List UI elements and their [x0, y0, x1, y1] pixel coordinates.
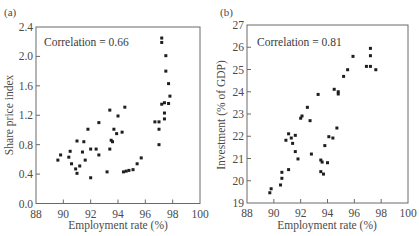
x-tick-label: 92 [295, 207, 307, 219]
data-point [82, 140, 85, 143]
y-tick-label: 27 [233, 19, 245, 31]
data-point [374, 68, 377, 71]
y-tick-label: 0.0 [19, 198, 34, 210]
data-point [89, 176, 92, 179]
data-point [56, 159, 59, 162]
x-tick-label: 98 [167, 208, 179, 220]
y-tick-label: 25 [233, 64, 245, 76]
y-tick-label: 24 [233, 86, 245, 98]
data-point [331, 137, 334, 140]
data-point [95, 148, 98, 151]
data-point [167, 102, 170, 105]
data-point [369, 47, 372, 50]
data-point [78, 164, 81, 167]
data-point [163, 117, 166, 120]
x-tick-label: 100 [399, 207, 417, 219]
data-point [108, 148, 111, 151]
data-point [89, 148, 92, 151]
y-tick-label: 1.6 [19, 80, 34, 92]
data-point [326, 161, 329, 164]
data-point [123, 106, 126, 109]
data-point [335, 127, 338, 130]
data-point [121, 131, 124, 134]
data-point [158, 143, 161, 146]
data-point [164, 54, 167, 57]
data-point [167, 82, 170, 85]
x-axis-title: Employment rate (%) [277, 219, 377, 232]
x-tick-label: 94 [322, 207, 334, 219]
y-tick-label: 20 [233, 175, 245, 187]
data-point [333, 88, 336, 91]
data-point [369, 54, 372, 57]
data-point [86, 128, 89, 131]
data-point [59, 153, 62, 156]
data-point [70, 162, 73, 165]
correlation-annotation: Correlation = 0.66 [44, 36, 129, 48]
data-point [310, 153, 313, 156]
data-point [294, 150, 297, 153]
chart-panel-b: (b) 889092949698100192021222324252627 Co… [205, 0, 419, 236]
y-tick-label: 21 [233, 153, 245, 165]
data-point [111, 140, 114, 143]
x-axis-title: Employment rate (%) [68, 219, 168, 232]
y-tick-label: 1.2 [19, 109, 34, 121]
data-point [122, 170, 125, 173]
y-tick-label: 26 [233, 41, 245, 53]
y-tick-label: 23 [233, 108, 245, 120]
data-point [108, 109, 111, 112]
y-tick-label: 2.4 [19, 21, 34, 33]
x-tick-label: 92 [85, 208, 97, 220]
data-point [279, 183, 282, 186]
data-point [280, 177, 283, 180]
scatter-plot-investment: (b) 889092949698100192021222324252627 Co… [205, 0, 419, 236]
y-tick-label: 19 [233, 197, 245, 209]
data-point [327, 135, 330, 138]
data-point [69, 150, 72, 153]
data-point [97, 153, 100, 156]
data-point [296, 157, 299, 160]
data-point [106, 170, 109, 173]
data-point [369, 65, 372, 68]
data-point [346, 68, 349, 71]
data-point [76, 172, 79, 175]
data-point [158, 120, 161, 123]
data-point [321, 161, 324, 164]
data-point [127, 169, 130, 172]
data-point [74, 167, 77, 170]
data-point [76, 139, 79, 142]
scatter-plot-share-price: (a) 8890929496981000.00.40.81.21.62.02.4… [0, 0, 210, 236]
data-point [280, 171, 283, 174]
data-point [317, 93, 320, 96]
plot-area: 889092949698100192021222324252627 [233, 19, 417, 219]
x-tick-label: 94 [112, 208, 124, 220]
data-point [125, 170, 128, 173]
data-point [81, 151, 84, 154]
data-point [67, 156, 70, 159]
data-point [319, 170, 322, 173]
data-point [132, 168, 135, 171]
data-point [136, 162, 139, 165]
x-tick-label: 90 [268, 207, 280, 219]
y-tick-label: 0.4 [19, 168, 34, 180]
data-point [284, 139, 287, 142]
data-point [268, 191, 271, 194]
data-point [140, 156, 143, 159]
data-point [84, 159, 87, 162]
x-tick-label: 96 [349, 207, 361, 219]
data-point [291, 142, 294, 145]
correlation-annotation: Correlation = 0.81 [257, 36, 342, 48]
data-point [168, 95, 171, 98]
plot-area: 8890929496981000.00.40.81.21.62.02.4 [19, 21, 209, 220]
y-axis-title: Share price index [3, 75, 16, 156]
y-axis-title: Investment (% of GDP) [215, 60, 228, 170]
data-point [112, 128, 115, 131]
data-point [158, 128, 161, 131]
data-point [306, 106, 309, 109]
data-point [337, 92, 340, 95]
data-point [163, 101, 166, 104]
data-point [287, 168, 290, 171]
data-point [115, 132, 118, 135]
y-tick-label: 0.8 [19, 139, 34, 151]
data-point [160, 103, 163, 106]
data-point [160, 41, 163, 44]
